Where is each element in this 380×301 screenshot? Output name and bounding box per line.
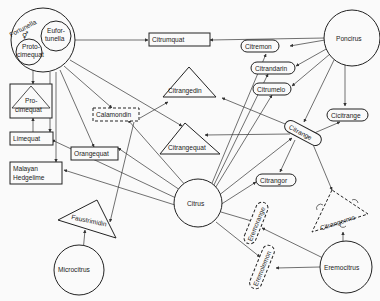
hybrid-cicitrange: Cicitrange: [327, 109, 368, 121]
eremocitrus-label: Eremocitrus: [324, 264, 360, 271]
citremon-label: Citremon: [245, 43, 272, 50]
genus-eremocitrus: Eremocitrus: [320, 241, 372, 293]
orangequat-label: Orangequat: [74, 150, 109, 158]
malayan-label: Malayan: [13, 165, 38, 173]
hybrid-citrandarin: Citrandarin: [251, 62, 295, 74]
limequat-label: Limequat: [13, 135, 40, 143]
hybrid-citremon: Citremon: [241, 40, 279, 52]
hybrid-citrangermo: Citrangermo: [312, 190, 368, 232]
cicitrange-label: Cicitrange: [331, 112, 361, 120]
hybrid-citrangedin: Citrangedin: [163, 67, 216, 97]
citrangor-label: Citrangor: [260, 177, 288, 185]
hybrid-calamondin: Calamondin: [93, 108, 139, 121]
eufortunella-label-2: tunella: [45, 35, 65, 42]
citrumelo-label: Citrumelo: [257, 86, 286, 93]
hybrid-symbol-icon: ⚥: [22, 31, 28, 39]
citrangedin-label: Citrangedin: [168, 87, 202, 95]
genus-microcitrus: Microcitrus: [54, 245, 104, 295]
hybrid-orangequat: Orangequat: [71, 147, 118, 160]
citrangequat-label: Citrangequat: [168, 144, 206, 152]
protocimequat-label-2: cimequat: [17, 51, 44, 59]
citrus-hybrid-diagram: Fortunella ⚥ Eufor- tunella Proto- cimeq…: [0, 0, 380, 301]
procimequat-label-2: cimequat: [15, 106, 42, 114]
microcitrus-label: Microcitrus: [58, 266, 91, 273]
poncirus-label: Poncirus: [336, 35, 362, 42]
hedgelime-label: Hedgelime: [13, 174, 45, 182]
hybrid-citrangequat: Citrangequat: [160, 123, 220, 154]
hybrid-citrumelo: Citrumelo: [253, 83, 291, 95]
hybrid-eremorange: Eremorange: [242, 200, 270, 245]
hybrid-malayan-hedgelime: Malayan Hedgelime: [10, 162, 62, 184]
hybrid-limequat: Limequat: [10, 132, 53, 145]
hybrid-citrangor: Citrangor: [256, 174, 296, 186]
calamondin-label: Calamondin: [96, 111, 132, 118]
hybrid-citrange: Citrange: [283, 118, 324, 147]
procimequat-label: Pro-: [25, 97, 37, 104]
genus-citrus: Citrus: [174, 179, 222, 227]
genus-poncirus: Poncirus: [324, 10, 380, 66]
hybrid-citrumquat: Citrumquat: [149, 33, 210, 46]
hybrid-faustrimidin: Faustrimidin: [58, 200, 116, 238]
citrumquat-label: Citrumquat: [152, 36, 184, 44]
protocimequat-label: Proto-: [22, 43, 40, 50]
citrandarin-label: Citrandarin: [255, 65, 288, 72]
eufortunella-label: Eufor-: [47, 27, 65, 34]
genus-fortunella: Fortunella ⚥ Eufor- tunella Proto- cimeq…: [8, 8, 75, 72]
hybrid-procimequat: Pro- cimequat: [10, 84, 52, 118]
citrus-label: Citrus: [187, 200, 205, 207]
